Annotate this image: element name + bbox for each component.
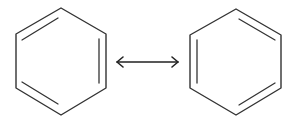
benzene-kekule-structure-left — [16, 8, 106, 115]
double-bond-line — [22, 18, 58, 40]
hexagon-ring — [190, 9, 281, 115]
double-bond-line — [22, 82, 58, 104]
double-bond-line — [239, 19, 275, 40]
resonance-diagram — [0, 0, 300, 122]
hexagon-ring — [16, 8, 106, 115]
benzene-kekule-structure-right — [190, 9, 281, 115]
resonance-arrow-icon — [117, 57, 178, 67]
